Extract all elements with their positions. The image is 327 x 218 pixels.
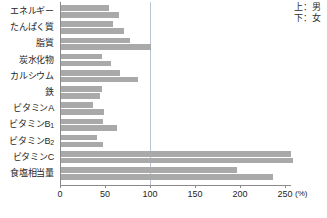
category-label: カルシウム: [10, 68, 54, 84]
bar-group: [60, 149, 325, 165]
bar-male: [61, 70, 120, 76]
bar-group: [60, 116, 325, 132]
bar-group: [60, 84, 325, 100]
bar-male: [61, 54, 102, 60]
x-tick-mark: [240, 185, 241, 188]
bar-group: [60, 19, 325, 35]
bar-female: [61, 125, 117, 131]
caption-strip: [2, 209, 252, 216]
bar-female: [61, 142, 103, 148]
bar-male: [61, 21, 113, 27]
bar-group: [60, 165, 325, 181]
bar-female: [61, 12, 119, 18]
category-axis-labels: エネルギーたんぱく質脂質炭水化物カルシウム鉄ビタミンAビタミンB1ビタミンB2ビ…: [0, 2, 57, 185]
bar-male: [61, 38, 130, 44]
category-label: 脂質: [36, 35, 54, 51]
x-tick-mark: [60, 185, 61, 188]
x-axis: 050100150200250(%): [60, 185, 325, 207]
category-label: エネルギー: [10, 3, 54, 19]
x-tick-mark: [285, 185, 286, 188]
bar-group: [60, 68, 325, 84]
x-tick-mark: [150, 185, 151, 188]
bar-female: [61, 77, 138, 83]
category-label: たんぱく質: [10, 19, 54, 35]
x-tick-label: 200: [232, 189, 247, 199]
category-label: ビタミンB1: [9, 116, 54, 132]
bar-female: [61, 93, 100, 99]
bar-male: [61, 5, 109, 11]
category-label: ビタミンB2: [9, 133, 54, 149]
bar-female: [61, 28, 124, 34]
bar-group: [60, 52, 325, 68]
category-label: 炭水化物: [19, 52, 54, 68]
x-tick-label: 0: [57, 189, 62, 199]
x-tick-mark: [195, 185, 196, 188]
bar-female: [61, 44, 151, 50]
bar-female: [61, 158, 293, 164]
bar-male: [61, 135, 97, 141]
x-tick-label: 100: [142, 189, 157, 199]
bar-male: [61, 151, 291, 157]
x-axis-unit-label: (%): [295, 189, 307, 198]
bar-female: [61, 61, 111, 67]
bar-female: [61, 109, 104, 115]
bar-group: [60, 133, 325, 149]
x-tick-label: 50: [100, 189, 110, 199]
category-label: ビタミンC: [13, 149, 55, 165]
bar-male: [61, 86, 102, 92]
nutrient-intake-bar-chart: 上：男 下：女 エネルギーたんぱく質脂質炭水化物カルシウム鉄ビタミンAビタミンB…: [0, 0, 327, 218]
plot-area: [60, 2, 325, 185]
bar-male: [61, 119, 103, 125]
category-label: 食塩相当量: [10, 165, 54, 181]
category-label: 鉄: [45, 84, 54, 100]
x-tick-label: 150: [187, 189, 202, 199]
x-tick-label: 250: [277, 189, 292, 199]
bar-rows: [60, 2, 325, 185]
bar-female: [61, 174, 273, 180]
bar-group: [60, 100, 325, 116]
x-tick-mark: [105, 185, 106, 188]
bar-male: [61, 102, 93, 108]
bar-male: [61, 167, 237, 173]
bar-group: [60, 35, 325, 51]
bar-group: [60, 3, 325, 19]
category-label: ビタミンA: [13, 100, 54, 116]
